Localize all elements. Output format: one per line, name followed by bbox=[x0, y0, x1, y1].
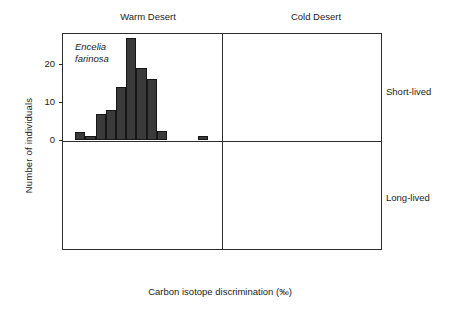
bar bbox=[147, 79, 157, 140]
species-label-line1: Encelia bbox=[75, 41, 109, 53]
bar bbox=[96, 114, 106, 141]
column-header-cold-desert: Cold Desert bbox=[246, 11, 386, 22]
species-label-line2: farinosa bbox=[75, 53, 109, 65]
bar bbox=[157, 131, 167, 140]
y-tick bbox=[59, 140, 63, 141]
bar bbox=[116, 87, 126, 140]
row-header-short-lived: Short-lived bbox=[386, 86, 431, 97]
species-label-encelia: Enceliafarinosa bbox=[75, 41, 109, 64]
bar bbox=[85, 136, 95, 140]
panel-divider-horizontal bbox=[62, 141, 382, 142]
bar bbox=[106, 110, 116, 140]
y-tick-label: 20 bbox=[23, 58, 55, 69]
bar bbox=[75, 132, 85, 140]
bar bbox=[126, 38, 136, 140]
y-tick-label: 0 bbox=[23, 134, 55, 145]
x-axis-title: Carbon isotope discrimination (‰) bbox=[60, 286, 380, 297]
y-tick bbox=[59, 64, 63, 65]
y-axis-title: Number of individuals bbox=[23, 61, 34, 231]
bar bbox=[136, 68, 146, 140]
y-tick-label: 10 bbox=[23, 96, 55, 107]
figure-container: Warm Desert Cold Desert Short-lived Long… bbox=[0, 0, 457, 315]
column-header-warm-desert: Warm Desert bbox=[78, 11, 218, 22]
row-header-long-lived: Long-lived bbox=[386, 192, 430, 203]
bar bbox=[198, 136, 208, 140]
y-tick bbox=[59, 102, 63, 103]
